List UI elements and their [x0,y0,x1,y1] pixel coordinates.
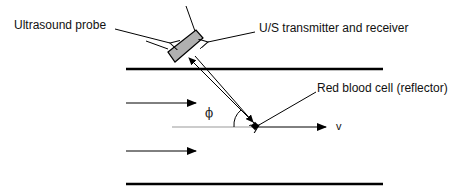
doppler-diagram: Ultrasound probe U/S transmitter and rec… [0,0,451,195]
probe-transducer [168,30,203,62]
angle-label: ϕ [205,106,213,120]
reflector-label: Red blood cell (reflector) [317,81,448,95]
velocity-label: v [336,120,342,132]
probe-label-pointer-2 [146,41,168,49]
red-blood-cell-reflector [251,122,259,130]
reflector-label-pointer [259,92,316,125]
transmit-beam [195,56,253,122]
transducer-label-pointer [208,32,255,42]
transducer-label: U/S transmitter and receiver [259,21,408,35]
angle-arc [234,110,241,127]
probe-label-pointer [115,29,170,43]
probe-label: Ultrasound probe [14,18,106,32]
probe-handle-left [186,6,196,34]
